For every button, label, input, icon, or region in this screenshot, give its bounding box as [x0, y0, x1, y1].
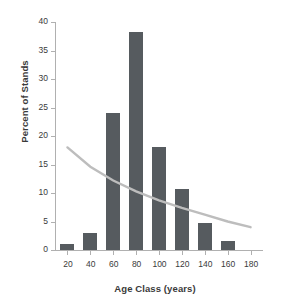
y-tick-label: 25 [39, 102, 48, 112]
y-tick-label: 30 [39, 73, 48, 83]
x-tick: 120 [182, 250, 183, 255]
y-tick-label: 20 [39, 130, 48, 140]
x-tick: 140 [205, 250, 206, 255]
y-tick-label: 35 [39, 45, 48, 55]
y-tick: 0 [51, 250, 56, 251]
x-tick: 20 [67, 250, 68, 255]
x-tick: 160 [228, 250, 229, 255]
y-tick-label: 15 [39, 159, 48, 169]
chart-container: Percent of Stands 0510152025303540 20406… [0, 0, 288, 304]
y-axis-title: Percent of Stands [19, 22, 30, 182]
x-tick-label: 160 [221, 259, 235, 269]
y-tick-label: 5 [43, 216, 48, 226]
x-tick: 40 [90, 250, 91, 255]
x-axis-title: Age Class (years) [40, 283, 270, 294]
x-tick-label: 120 [175, 259, 189, 269]
y-tick-label: 10 [39, 187, 48, 197]
trend-line-path [67, 147, 250, 227]
x-tick-label: 100 [152, 259, 166, 269]
plot-area: 0510152025303540 20406080100120140160180 [56, 22, 262, 250]
x-tick: 80 [136, 250, 137, 255]
x-tick-label: 80 [132, 259, 141, 269]
x-tick-label: 180 [244, 259, 258, 269]
trend-line-series [56, 22, 262, 250]
x-tick: 60 [113, 250, 114, 255]
x-tick: 100 [159, 250, 160, 255]
y-tick-label: 0 [43, 244, 48, 254]
x-tick-label: 140 [198, 259, 212, 269]
x-tick-label: 60 [109, 259, 118, 269]
x-tick-label: 40 [86, 259, 95, 269]
x-tick-label: 20 [63, 259, 72, 269]
x-tick: 180 [251, 250, 252, 255]
y-tick-label: 40 [39, 16, 48, 26]
